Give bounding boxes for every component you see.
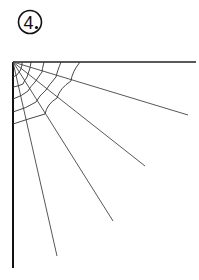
spider-web-illustration bbox=[0, 0, 199, 280]
radial-threads bbox=[13, 62, 188, 256]
